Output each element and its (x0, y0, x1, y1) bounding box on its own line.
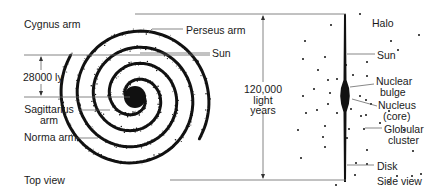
globular-line2: cluster (384, 135, 424, 146)
label-sagittarius-arm: Sagittarius arm (23, 104, 75, 126)
label-nucleus-core: Nucleus (core) (378, 100, 416, 122)
milky-way-diagram: Cygnus arm Perseus arm Sun 28000 ly Sagi… (0, 0, 440, 196)
label-sun-top: Sun (212, 48, 231, 59)
label-distance-28000: 28000 ly (23, 72, 63, 83)
label-halo: Halo (372, 18, 394, 29)
label-120000-light-years: 120,000 light years (240, 84, 286, 116)
spiral-galaxy-top-view (58, 29, 211, 165)
label-globular-cluster: Globular cluster (384, 124, 424, 146)
label-sagittarius-line2: arm (23, 115, 75, 126)
caption-top-view: Top view (24, 175, 65, 186)
measure-lines (24, 14, 346, 180)
caption-side-view: Side view (377, 176, 422, 187)
label-nuclear-bulge: Nuclear bulge (376, 76, 412, 98)
measure-line3: years (240, 105, 286, 116)
label-sun-side: Sun (377, 50, 396, 61)
label-perseus-arm: Perseus arm (186, 25, 246, 36)
bulge-line2: bulge (376, 87, 412, 98)
nucleus-line2: (core) (378, 111, 416, 122)
label-disk: Disk (377, 161, 397, 172)
label-cygnus-arm: Cygnus arm (24, 19, 81, 30)
measure-line1: 120,000 (240, 84, 286, 95)
label-norma-arm: Norma arm (24, 132, 77, 143)
